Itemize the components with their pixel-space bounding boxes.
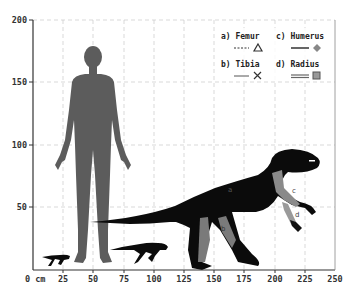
x-tick-50: 50 [88, 274, 98, 284]
x-tick-75: 75 [119, 274, 129, 284]
legend-femur-label: a) Femur [221, 32, 260, 41]
bone-label-c: c [292, 187, 296, 195]
y-tick-100: 100 [12, 140, 27, 150]
x-tick-150: 150 [206, 274, 221, 284]
large-dinosaur-silhouette: a b c d [90, 149, 320, 270]
x-tick-labels: 0 cm 25 50 75 100 125 150 175 200 225 25… [25, 274, 343, 284]
bone-label-a: a [228, 186, 232, 194]
square-icon [313, 72, 320, 79]
x-tick-0: 0 cm [25, 274, 45, 284]
bone-label-b: b [221, 225, 226, 233]
legend-humerus-label: c) Humerus [276, 32, 324, 41]
x-tick-200: 200 [267, 274, 282, 284]
scale-diagram: a b c d 200 150 100 50 [0, 0, 354, 299]
legend-tibia-label: b) Tibia [221, 59, 260, 69]
y-tick-200: 200 [12, 15, 27, 25]
x-tick-25: 25 [58, 274, 68, 284]
legend-radius-label: d) Radius [276, 59, 320, 69]
legend: a) Femur b) Tibia c) Humerus d) Radius [215, 28, 333, 80]
x-tick-175: 175 [236, 274, 251, 284]
y-tick-50: 50 [17, 202, 27, 212]
x-tick-100: 100 [146, 274, 161, 284]
small-dinosaur-silhouette [42, 255, 70, 266]
x-tick-250: 250 [327, 274, 342, 284]
bone-label-d: d [295, 211, 299, 219]
x-tick-225: 225 [297, 274, 312, 284]
y-tick-150: 150 [12, 77, 27, 87]
x-tick-125: 125 [176, 274, 191, 284]
y-tick-labels: 200 150 100 50 [12, 15, 27, 212]
medium-dinosaur-silhouette [110, 243, 168, 264]
